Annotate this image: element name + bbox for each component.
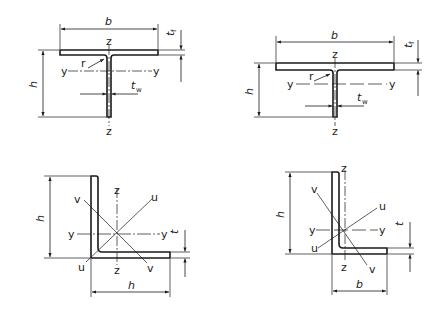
- unequal-angle-label-h: h: [274, 211, 287, 218]
- equal-angle-v-axis: [84, 200, 147, 263]
- unequal-angle-label-v-bottom: v: [369, 263, 376, 276]
- unequal-angle-u-axis: [318, 208, 377, 248]
- unequal-angle-section: [285, 170, 414, 295]
- tee-1-label-tf-sub: f: [170, 29, 178, 32]
- unequal-angle-label-y-left: y: [309, 224, 316, 237]
- tee-1-r-leader: [88, 59, 104, 68]
- unequal-angle-label-z-bottom: z: [341, 261, 347, 274]
- unequal-angle-profile: [332, 172, 387, 254]
- tee-1-label-r: r: [81, 57, 86, 70]
- equal-angle-label-u-bottom: u: [78, 261, 85, 274]
- tee-1-labels: b z z y y r h t f t w: [27, 15, 178, 138]
- unequal-angle-label-y-right: y: [379, 224, 386, 237]
- equal-angle-label-t: t: [168, 229, 181, 234]
- tee-2-labels: b z z y y r h t f t w: [243, 29, 416, 138]
- equal-angle-label-y-right: y: [161, 228, 168, 241]
- unequal-angle-label-z-top: z: [341, 162, 347, 175]
- tee-2-r-leader: [314, 74, 330, 81]
- tee-2-label-b: b: [331, 29, 338, 42]
- tee-section-2: [254, 36, 422, 126]
- tee-1-label-h: h: [27, 81, 40, 88]
- section-drawings: b z z y y r h t f t w b z z y: [0, 0, 444, 312]
- tee-2-label-z-top: z: [332, 48, 338, 61]
- tee-1-label-z-bottom: z: [106, 125, 112, 138]
- equal-angle-label-z-bottom: z: [114, 264, 120, 277]
- tee-2-label-tf-sub: f: [408, 41, 416, 44]
- tee-1-label-y-left: y: [61, 65, 68, 78]
- tee-1-label-tw-sub: w: [136, 86, 142, 94]
- unequal-angle-label-u-bottom: u: [311, 242, 318, 255]
- equal-angle-label-h: h: [34, 215, 47, 222]
- tee-2-label-y-right: y: [389, 78, 396, 91]
- equal-angle-label-v-top: v: [74, 193, 81, 206]
- equal-angle-label-z-top: z: [114, 184, 120, 197]
- tee-2-label-tw-sub: w: [362, 98, 368, 106]
- equal-angle-label-v-bottom: v: [147, 262, 154, 275]
- tee-1-label-y-right: y: [153, 65, 160, 78]
- tee-2-label-h: h: [243, 88, 256, 95]
- equal-angle-labels: h h z z y y u u v v t: [34, 184, 181, 292]
- unequal-angle-label-b: b: [356, 278, 363, 291]
- equal-angle-label-h-bottom: h: [128, 279, 135, 292]
- unequal-angle-label-t: t: [393, 221, 406, 226]
- tee-2-label-z-bottom: z: [332, 125, 338, 138]
- tee-1-label-z-top: z: [106, 35, 112, 48]
- unequal-angle-label-u-top: u: [379, 200, 386, 213]
- unequal-angle-label-v-top: v: [311, 183, 318, 196]
- tee-1-label-b: b: [105, 15, 112, 28]
- tee-2-label-y-left: y: [287, 78, 294, 91]
- tee-2-label-r: r: [309, 70, 314, 83]
- equal-angle-label-y-left: y: [68, 228, 75, 241]
- equal-angle-label-u-top: u: [151, 191, 158, 204]
